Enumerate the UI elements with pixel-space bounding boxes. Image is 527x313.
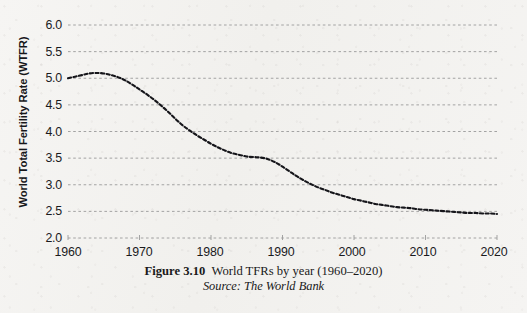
caption-line-main: Figure 3.10 World TFRs by year (1960–202… [0,264,527,279]
wtfr-data-line [68,73,497,214]
plot-svg [0,0,527,262]
caption-figure-number: Figure 3.10 [145,264,206,278]
caption-title-text: World TFRs by year (1960–2020) [212,264,383,278]
figure-caption: Figure 3.10 World TFRs by year (1960–202… [0,264,527,294]
caption-source: Source: The World Bank [0,279,527,294]
x-axis-ticks [68,235,497,240]
gridlines [68,25,497,238]
figure-3-10: World Total Fertility Rate (WTFR) 6.0 5.… [0,0,527,313]
chart-area: World Total Fertility Rate (WTFR) 6.0 5.… [0,0,527,262]
